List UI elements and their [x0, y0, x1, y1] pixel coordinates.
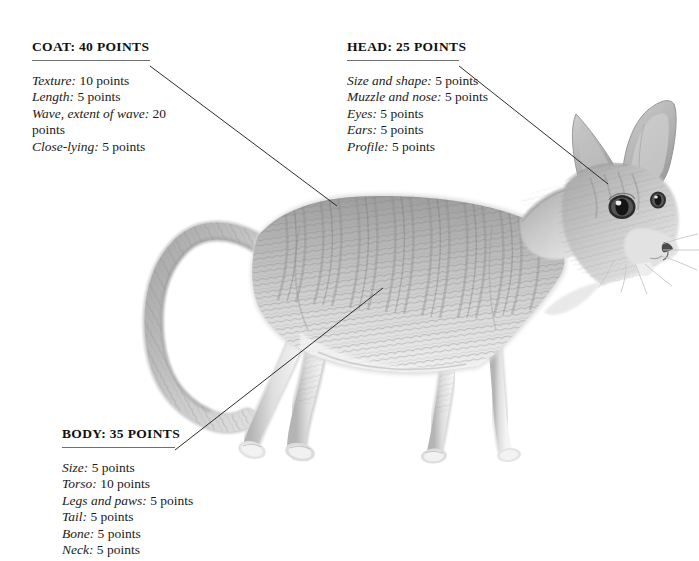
- criterion-label: Texture:: [32, 73, 76, 88]
- criterion-label: Size and shape:: [347, 73, 432, 88]
- criterion-label: Ears:: [347, 122, 377, 137]
- criterion-value: 10 points: [79, 73, 129, 88]
- body-criteria-list: Size: 5 points Torso: 10 points Legs and…: [62, 460, 252, 559]
- criterion-value: 5 points: [92, 460, 135, 475]
- list-item: Size: 5 points: [62, 460, 252, 477]
- head-annotation-rule: [347, 60, 459, 61]
- list-item: Muzzle and nose: 5 points: [347, 89, 527, 106]
- criterion-value: 5 points: [380, 122, 423, 137]
- list-item: Ears: 5 points: [347, 122, 527, 139]
- list-item: Legs and paws: 5 points: [62, 493, 252, 510]
- coat-annotation-rule: [32, 60, 150, 61]
- criterion-label: Profile:: [347, 139, 389, 154]
- criterion-label: Length:: [32, 89, 74, 104]
- list-item: Torso: 10 points: [62, 476, 252, 493]
- criterion-value: 5 points: [77, 89, 120, 104]
- body-annotation-block: BODY: 35 POINTS Size: 5 points Torso: 10…: [62, 427, 252, 559]
- criterion-value: 10 points: [100, 476, 150, 491]
- list-item: Size and shape: 5 points: [347, 73, 527, 90]
- list-item: Length: 5 points: [32, 89, 202, 106]
- criterion-label: Wave, extent of wave:: [32, 106, 149, 121]
- list-item: Wave, extent of wave: 20 points: [32, 106, 202, 139]
- list-item: Tail: 5 points: [62, 509, 252, 526]
- criterion-label: Size:: [62, 460, 88, 475]
- list-item: Texture: 10 points: [32, 73, 202, 90]
- criterion-value: 5 points: [380, 106, 423, 121]
- criterion-label: Close-lying:: [32, 139, 99, 154]
- criterion-label: Eyes:: [347, 106, 377, 121]
- coat-annotation-block: COAT: 40 POINTS Texture: 10 points Lengt…: [32, 40, 202, 155]
- criterion-label: Bone:: [62, 526, 94, 541]
- criterion-value: 5 points: [90, 509, 133, 524]
- criterion-value: 5 points: [435, 73, 478, 88]
- head-annotation-block: HEAD: 25 POINTS Size and shape: 5 points…: [347, 40, 527, 155]
- cat-head: [544, 101, 699, 315]
- criterion-value: 5 points: [98, 526, 141, 541]
- criterion-label: Tail:: [62, 509, 87, 524]
- criterion-value: 5 points: [102, 139, 145, 154]
- criterion-label: Muzzle and nose:: [347, 89, 442, 104]
- head-annotation-title: HEAD: 25 POINTS: [347, 40, 527, 55]
- criterion-label: Torso:: [62, 476, 97, 491]
- criterion-label: Legs and paws:: [62, 493, 147, 508]
- criterion-value: 5 points: [97, 542, 140, 557]
- list-item: Bone: 5 points: [62, 526, 252, 543]
- criterion-value: 5 points: [392, 139, 435, 154]
- points-diagram-page: COAT: 40 POINTS Texture: 10 points Lengt…: [0, 0, 699, 561]
- criterion-label: Neck:: [62, 542, 93, 557]
- list-item: Eyes: 5 points: [347, 106, 527, 123]
- coat-criteria-list: Texture: 10 points Length: 5 points Wave…: [32, 73, 202, 156]
- coat-annotation-title: COAT: 40 POINTS: [32, 40, 202, 55]
- list-item: Profile: 5 points: [347, 139, 527, 156]
- head-criteria-list: Size and shape: 5 points Muzzle and nose…: [347, 73, 527, 156]
- list-item: Close-lying: 5 points: [32, 139, 202, 156]
- cat-tail: [153, 231, 262, 423]
- list-item: Neck: 5 points: [62, 542, 252, 559]
- criterion-value: 5 points: [445, 89, 488, 104]
- body-annotation-title: BODY: 35 POINTS: [62, 427, 252, 442]
- body-annotation-rule: [62, 447, 175, 448]
- criterion-value: 5 points: [150, 493, 193, 508]
